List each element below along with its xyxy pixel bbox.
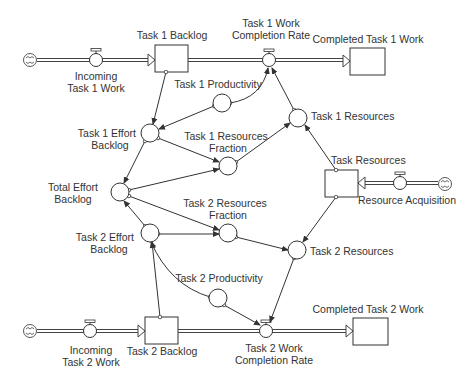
valve-task2-completion[interactable] — [260, 320, 273, 338]
label-completed-task1: Completed Task 1 Work — [312, 33, 423, 45]
label-task2-resources: Task 2 Resources — [310, 245, 393, 257]
valve-incoming-task1[interactable] — [90, 49, 103, 67]
label-task1-effort-line1: Task 1 Effort — [78, 127, 136, 139]
stock-completed-task2-work[interactable] — [353, 318, 388, 345]
label-task-resources: Task Resources — [331, 154, 406, 166]
stock-completed-task1-work[interactable] — [350, 48, 385, 75]
aux-task1-resources-fraction[interactable] — [219, 157, 237, 175]
aux-total-effort-backlog[interactable] — [111, 183, 129, 201]
label-task2-completion-line1: Task 2 Work — [245, 342, 303, 354]
label-completed-task2: Completed Task 2 Work — [312, 303, 423, 315]
aux-task2-resources[interactable] — [288, 241, 306, 259]
label-task1-resfrac-line1: Task 1 Resources — [184, 130, 267, 142]
label-task2-resfrac-line1: Task 2 Resources — [183, 197, 266, 209]
label-task1-completion-line1: Task 1 Work — [242, 17, 300, 29]
aux-task2-effort-backlog[interactable] — [141, 224, 159, 242]
aux-task1-productivity[interactable] — [213, 94, 231, 112]
label-task2-effort-line2: Backlog — [90, 243, 127, 255]
valve-resource-acquisition[interactable] — [394, 172, 407, 190]
stock-task1-backlog[interactable] — [155, 45, 188, 72]
aux-task1-effort-backlog[interactable] — [141, 124, 159, 142]
label-resource-acquisition: Resource Acquisition — [358, 194, 456, 206]
stock-task2-backlog[interactable] — [145, 317, 178, 344]
aux-task1-resources[interactable] — [289, 109, 307, 127]
label-task1-backlog: Task 1 Backlog — [137, 29, 208, 41]
label-task1-resfrac-line2: Fraction — [209, 142, 247, 154]
cloud-icon — [24, 54, 37, 67]
label-task2-productivity: Task 2 Productivity — [175, 272, 263, 284]
label-incoming-task1-line1: Incoming — [75, 70, 118, 82]
cloud-icon — [439, 178, 452, 191]
valve-task1-completion[interactable] — [263, 49, 276, 67]
label-task1-effort-line2: Backlog — [91, 139, 128, 151]
valve-incoming-task2[interactable] — [84, 320, 97, 338]
label-incoming-task2-line2: Task 2 Work — [62, 356, 120, 368]
label-total-effort-line1: Total Effort — [48, 181, 98, 193]
cloud-icon — [24, 325, 37, 338]
label-total-effort-line2: Backlog — [54, 193, 91, 205]
label-task2-resfrac-line2: Fraction — [209, 209, 247, 221]
aux-task2-productivity[interactable] — [209, 289, 227, 307]
label-task2-completion-line2: Completion Rate — [235, 354, 313, 366]
label-task1-completion-line2: Completion Rate — [232, 29, 310, 41]
label-incoming-task2-line1: Incoming — [70, 344, 113, 356]
label-task2-effort-line1: Task 2 Effort — [76, 231, 134, 243]
label-task2-backlog: Task 2 Backlog — [127, 345, 198, 357]
label-task1-productivity: Task 1 Productivity — [174, 78, 262, 90]
stock-task-resources[interactable] — [325, 170, 358, 197]
label-incoming-task1-line2: Task 1 Work — [67, 82, 125, 94]
aux-task2-resources-fraction[interactable] — [219, 224, 237, 242]
label-task1-resources: Task 1 Resources — [311, 110, 394, 122]
